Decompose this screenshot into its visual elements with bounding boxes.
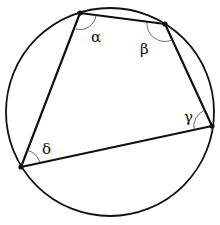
label-beta: β — [140, 40, 149, 58]
vertex-d — [18, 164, 23, 169]
vertex-b — [162, 21, 167, 26]
vertex-c — [209, 123, 214, 128]
label-alpha: α — [91, 28, 101, 46]
angle-arc-delta — [26, 150, 40, 163]
diagram-canvas: α β γ δ — [0, 0, 220, 225]
label-delta: δ — [42, 140, 51, 158]
circumscribed-circle — [6, 8, 214, 216]
vertex-a — [77, 10, 82, 15]
cyclic-quadrilateral-diagram: α β γ δ — [0, 0, 220, 225]
label-gamma: γ — [184, 108, 193, 126]
